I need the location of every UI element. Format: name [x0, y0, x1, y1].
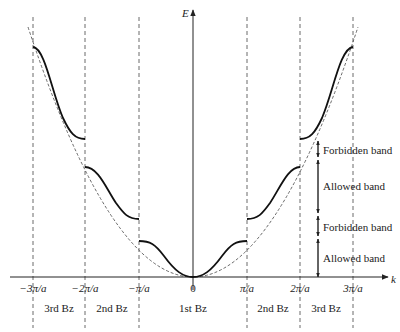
tick-labels: −3π/a −2π/a −π/a 0 π/a 2π/a 3π/a: [20, 282, 364, 294]
tick-label: −π/a: [128, 282, 150, 294]
band-label-forbidden: Forbidden band: [323, 144, 393, 156]
tick-label: −2π/a: [72, 282, 99, 294]
zone-label: 3rd Bz: [44, 302, 74, 314]
zone-label: 2nd Bz: [257, 302, 289, 314]
k-axis-label: k: [391, 273, 397, 285]
zone-label: 2nd Bz: [96, 302, 128, 314]
zone-labels: 3rd Bz 2nd Bz 1st Bz 2nd Bz 3rd Bz: [44, 302, 341, 314]
band-labels: Forbidden band Allowed band Forbidden ba…: [323, 144, 393, 264]
tick-label: 3π/a: [342, 282, 363, 294]
band-label-allowed: Allowed band: [323, 180, 386, 192]
band-label-forbidden: Forbidden band: [323, 221, 393, 233]
zone-label: 1st Bz: [179, 302, 207, 314]
zone-label: 3rd Bz: [311, 302, 341, 314]
tick-label: π/a: [240, 282, 255, 294]
E-axis-label: E: [181, 7, 189, 19]
tick-label: 0: [190, 282, 196, 294]
band-label-allowed: Allowed band: [323, 252, 386, 264]
tick-label: 2π/a: [290, 282, 310, 294]
band-structure-diagram: E k −3π/a −2π/a −π/a 0 π/a 2π/a 3π/a 3rd…: [0, 0, 400, 332]
tick-label: −3π/a: [20, 282, 47, 294]
diagram-canvas: E k −3π/a −2π/a −π/a 0 π/a 2π/a 3π/a 3rd…: [0, 0, 400, 332]
